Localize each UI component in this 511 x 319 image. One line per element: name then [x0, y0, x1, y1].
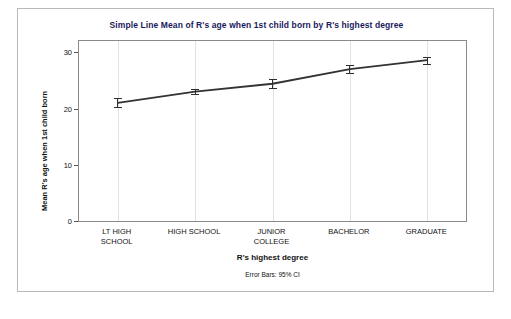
x-tick-label: JUNIOR COLLEGE	[233, 227, 310, 246]
x-tick-label: LT HIGH SCHOOL	[78, 227, 155, 246]
error-bar-cap	[114, 107, 122, 108]
y-tick-label: 20	[50, 104, 72, 113]
plot-area	[78, 40, 467, 222]
y-tick-mark	[74, 109, 78, 110]
error-bar-cap	[423, 64, 431, 65]
x-tick-label: HIGH SCHOOL	[155, 227, 232, 237]
error-bar	[272, 79, 273, 89]
y-axis-title: Mean R's age when 1st child born	[40, 91, 49, 211]
error-bar-cap	[191, 94, 199, 95]
x-axis-title: R's highest degree	[78, 253, 467, 262]
error-bar	[349, 65, 350, 73]
error-bar	[117, 98, 118, 108]
chart-footnote: Error Bars: 95% CI	[78, 271, 467, 278]
y-tick-mark	[74, 165, 78, 166]
plot-inner	[79, 41, 466, 221]
y-tick-label: 10	[50, 160, 72, 169]
y-tick-mark	[74, 52, 78, 53]
chart-frame: Simple Line Mean of R's age when 1st chi…	[17, 8, 494, 292]
error-bar-cap	[114, 98, 122, 99]
error-bar-cap	[269, 88, 277, 89]
error-bar-cap	[346, 65, 354, 66]
error-bar-cap	[191, 89, 199, 90]
error-bar-cap	[423, 57, 431, 58]
series-line	[79, 41, 466, 221]
y-tick-label: 30	[50, 48, 72, 57]
error-bar-cap	[269, 79, 277, 80]
chart-title: Simple Line Mean of R's age when 1st chi…	[18, 20, 495, 30]
error-bar	[427, 57, 428, 64]
y-tick-mark	[74, 221, 78, 222]
x-tick-label: BACHELOR	[310, 227, 387, 237]
x-tick-label: GRADUATE	[388, 227, 465, 237]
error-bar-cap	[346, 73, 354, 74]
y-tick-label: 0	[50, 217, 72, 226]
